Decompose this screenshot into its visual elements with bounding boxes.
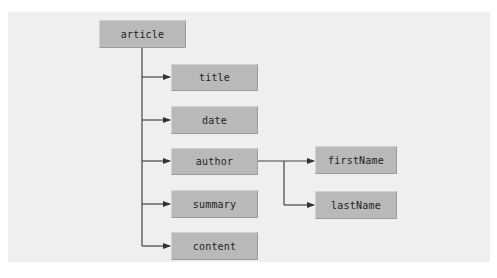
node-article: article xyxy=(99,20,186,48)
node-author: author xyxy=(171,148,258,175)
node-date: date xyxy=(171,106,258,134)
node-lastname: lastName xyxy=(315,191,397,219)
node-summary: summary xyxy=(171,190,258,218)
node-firstname: firstName xyxy=(315,146,397,174)
node-title: title xyxy=(171,64,258,91)
node-content: content xyxy=(171,232,258,260)
